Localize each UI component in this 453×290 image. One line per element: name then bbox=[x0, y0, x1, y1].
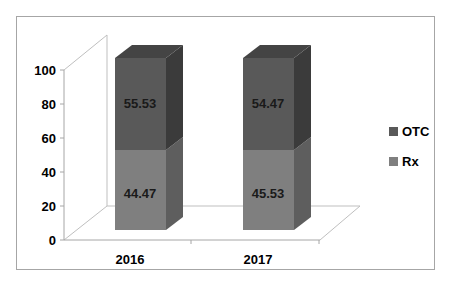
svg-text:44.47: 44.47 bbox=[124, 186, 157, 201]
bar-2017: 54.47 45.53 bbox=[243, 45, 311, 230]
svg-text:55.53: 55.53 bbox=[124, 96, 157, 111]
bar-2017-rx-side bbox=[294, 137, 311, 230]
chart-plot: 100 80 60 40 20 0 55.53 44.47 54.47 45.5… bbox=[0, 0, 453, 290]
legend-swatch-otc bbox=[389, 127, 398, 136]
bar-2016: 55.53 44.47 bbox=[115, 45, 183, 230]
svg-text:60: 60 bbox=[42, 131, 56, 146]
bar-2017-otc-side bbox=[294, 45, 311, 150]
svg-text:45.53: 45.53 bbox=[252, 186, 285, 201]
svg-text:2016: 2016 bbox=[116, 252, 145, 267]
legend-swatch-rx bbox=[389, 157, 398, 166]
legend: OTC Rx bbox=[389, 123, 429, 183]
svg-text:54.47: 54.47 bbox=[252, 96, 285, 111]
svg-text:2017: 2017 bbox=[244, 252, 273, 267]
bar-2016-otc-side bbox=[166, 45, 183, 150]
svg-text:0: 0 bbox=[49, 233, 56, 248]
svg-text:20: 20 bbox=[42, 199, 56, 214]
legend-item-rx: Rx bbox=[389, 153, 429, 169]
legend-label-rx: Rx bbox=[402, 154, 419, 169]
svg-text:80: 80 bbox=[42, 97, 56, 112]
x-tick-labels: 2016 2017 bbox=[116, 252, 273, 267]
svg-text:100: 100 bbox=[34, 63, 56, 78]
bar-2016-rx-side bbox=[166, 137, 183, 230]
svg-text:40: 40 bbox=[42, 165, 56, 180]
legend-label-otc: OTC bbox=[402, 124, 429, 139]
y-tick-labels: 100 80 60 40 20 0 bbox=[34, 63, 56, 248]
chart-walls bbox=[64, 35, 360, 240]
legend-item-otc: OTC bbox=[389, 123, 429, 139]
